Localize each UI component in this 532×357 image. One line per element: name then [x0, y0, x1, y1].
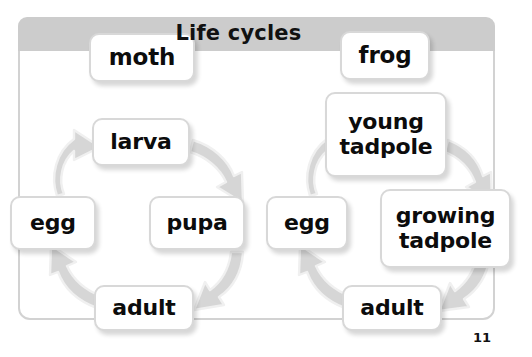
node-label: pupa	[166, 211, 227, 236]
node-moth-pupa[interactable]: pupa	[149, 196, 245, 250]
life-cycles-diagram-page: Life cycles	[0, 0, 532, 357]
node-frog-adult[interactable]: adult	[342, 285, 442, 331]
node-label: moth	[109, 45, 175, 71]
node-label: growing tadpole	[396, 204, 496, 253]
page-number: 11	[468, 330, 496, 345]
node-label: young tadpole	[339, 110, 432, 159]
node-label: egg	[284, 211, 330, 236]
node-moth-egg[interactable]: egg	[10, 196, 96, 250]
node-label: larva	[110, 130, 171, 155]
arrow-larva-to-pupa-moth	[190, 140, 243, 203]
node-frog-young-tadpole[interactable]: young tadpole	[325, 92, 447, 177]
node-label: adult	[112, 296, 175, 321]
node-frog-growing-tadpole[interactable]: growing tadpole	[380, 189, 511, 268]
node-moth-adult[interactable]: adult	[94, 285, 194, 331]
node-label: adult	[360, 296, 423, 321]
node-moth-title[interactable]: moth	[89, 33, 195, 82]
node-moth-larva[interactable]: larva	[92, 118, 190, 166]
node-frog-title[interactable]: frog	[340, 31, 430, 80]
arrow-pupa-to-adult-moth	[194, 252, 243, 310]
node-frog-egg[interactable]: egg	[266, 196, 348, 250]
node-label: frog	[359, 43, 412, 69]
cycle-arrows-layer	[0, 0, 532, 357]
node-label: egg	[30, 211, 76, 236]
